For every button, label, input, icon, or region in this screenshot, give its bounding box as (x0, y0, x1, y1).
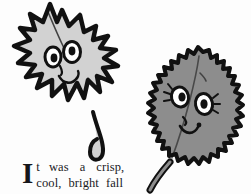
story-line-2: cool,brightfall (22, 175, 140, 191)
story-word: was (49, 159, 69, 175)
serrated-leaf-stem-fill (150, 162, 170, 190)
maple-leaf-right-eye-pupil (69, 47, 76, 56)
story-word: a (80, 159, 86, 175)
serrated-leaf-left-eye-pupil (178, 92, 185, 101)
story-word: fall (106, 175, 123, 191)
storybook-page: I twasacrisp, cool,brightfall (0, 0, 251, 194)
maple-leaf-left-eye-pupil (51, 54, 58, 63)
serrated-leaf-character (148, 47, 243, 190)
story-dropcap: I (22, 160, 33, 187)
story-line-1: twasacrisp, (22, 159, 140, 175)
serrated-leaf-right-eye-pupil (200, 99, 207, 109)
story-word: bright (68, 175, 98, 191)
story-word: cool, (36, 175, 61, 191)
story-paragraph: I twasacrisp, cool,brightfall (22, 159, 140, 191)
maple-leaf-stem (90, 112, 103, 160)
story-word: crisp, (96, 159, 124, 175)
story-word: t (36, 159, 40, 175)
maple-leaf-character (14, 4, 118, 160)
serrated-leaf-mouth-dimple (197, 123, 202, 128)
